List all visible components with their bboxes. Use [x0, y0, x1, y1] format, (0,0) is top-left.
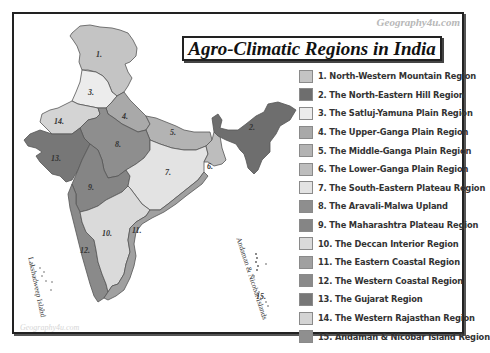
region-num-13: 13. — [51, 154, 61, 163]
legend-label: 11. The Eastern Coastal Region — [318, 257, 460, 267]
legend-item: 1. North-Western Mountain Region — [299, 67, 490, 86]
legend-label: 13. The Gujarat Region — [318, 294, 422, 304]
legend-label: 3. The Satluj-Yamuna Plain Region — [318, 108, 473, 118]
legend-swatch — [299, 163, 313, 176]
legend-item: 11. The Eastern Coastal Region — [299, 253, 490, 272]
legend-swatch — [299, 219, 313, 232]
region-num-10: 10. — [102, 229, 112, 238]
legend-swatch — [299, 256, 313, 269]
legend-label: 7. The South-Eastern Plateau Region — [318, 183, 485, 193]
legend-swatch — [299, 200, 313, 213]
legend-label: 15. Andaman & Nicobar Island Region — [318, 332, 490, 342]
region-num-3: 3. — [87, 88, 94, 97]
legend-label: 8. The Aravali-Malwa Upland — [318, 201, 448, 211]
legend-swatch — [299, 126, 313, 139]
region-num-4: 4. — [121, 112, 128, 121]
region-num-2: 2. — [248, 123, 255, 132]
region-2[interactable] — [212, 102, 296, 174]
legend-item: 13. The Gujarat Region — [299, 290, 490, 309]
watermark-bottom: Geography4u.com — [20, 323, 79, 332]
region-num-12: 12. — [80, 246, 90, 255]
legend-label: 10. The Deccan Interior Region — [318, 239, 459, 249]
legend-swatch — [299, 274, 313, 287]
region-num-5: 5. — [170, 128, 176, 137]
legend-label: 12. The Western Coastal Region — [318, 276, 463, 286]
legend-item: 10. The Deccan Interior Region — [299, 234, 490, 253]
legend-label: 4. The Upper-Ganga Plain Region — [318, 127, 468, 137]
legend-label: 2. The North-Eastern Hill Region — [318, 90, 465, 100]
legend-item: 8. The Aravali-Malwa Upland — [299, 197, 490, 216]
legend-label: 1. North-Western Mountain Region — [318, 71, 476, 81]
legend-swatch — [299, 312, 313, 325]
legend: 1. North-Western Mountain Region 2. The … — [299, 67, 490, 346]
title-box: Agro-Climatic Regions in India — [182, 36, 442, 61]
legend-label: 14. The Western Rajasthan Region — [318, 313, 475, 323]
legend-item: 9. The Maharashtra Plateau Region — [299, 216, 490, 235]
region-num-9: 9. — [88, 183, 94, 192]
legend-item: 12. The Western Coastal Region — [299, 272, 490, 291]
legend-swatch — [299, 107, 313, 120]
legend-label: 5. The Middle-Ganga Plain Region — [318, 146, 471, 156]
legend-item: 3. The Satluj-Yamuna Plain Region — [299, 104, 490, 123]
region-num-7: 7. — [165, 168, 171, 177]
legend-swatch — [299, 88, 313, 101]
legend-swatch — [299, 181, 313, 194]
legend-item: 14. The Western Rajasthan Region — [299, 309, 490, 328]
legend-item: 2. The North-Eastern Hill Region — [299, 86, 490, 105]
legend-item: 15. Andaman & Nicobar Island Region — [299, 327, 490, 346]
legend-swatch — [299, 293, 313, 306]
map-title: Agro-Climatic Regions in India — [188, 38, 436, 60]
legend-swatch — [299, 144, 313, 157]
region-num-8: 8. — [115, 140, 121, 149]
legend-label: 9. The Maharashtra Plateau Region — [318, 220, 478, 230]
legend-item: 6. The Lower-Ganga Plain Region — [299, 160, 490, 179]
region-num-1: 1. — [96, 50, 102, 59]
legend-label: 6. The Lower-Ganga Plain Region — [318, 164, 468, 174]
legend-swatch — [299, 237, 313, 250]
region-num-6: 6. — [207, 162, 213, 171]
legend-item: 5. The Middle-Ganga Plain Region — [299, 141, 490, 160]
legend-swatch — [299, 330, 313, 343]
region-num-14: 14. — [54, 117, 64, 126]
legend-item: 7. The South-Eastern Plateau Region — [299, 179, 490, 198]
region-num-11: 11. — [132, 226, 142, 235]
legend-item: 4. The Upper-Ganga Plain Region — [299, 123, 490, 142]
legend-swatch — [299, 70, 313, 83]
